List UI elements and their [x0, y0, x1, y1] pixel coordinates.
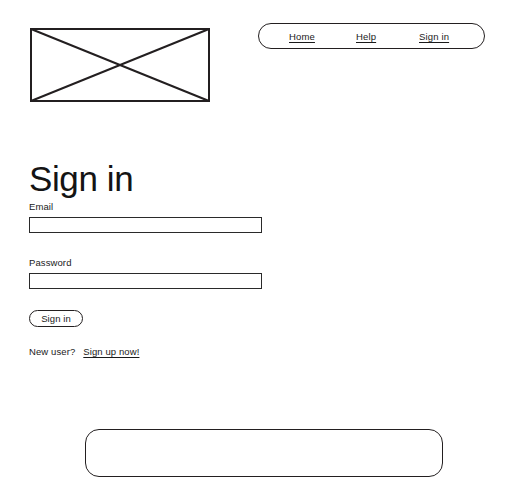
sign-in-submit-button[interactable]: Sign in — [29, 310, 83, 327]
footer-panel — [85, 429, 443, 477]
logo-image-placeholder — [30, 28, 210, 102]
email-input[interactable] — [29, 217, 262, 233]
password-field-label: Password — [29, 257, 72, 268]
nav-link-help[interactable]: Help — [356, 31, 376, 42]
nav-link-sign-in[interactable]: Sign in — [419, 31, 449, 42]
password-input[interactable] — [29, 273, 262, 289]
new-user-row: New user? Sign up now! — [29, 346, 139, 358]
image-placeholder-icon — [30, 28, 210, 102]
email-field-label: Email — [29, 201, 53, 212]
nav-link-home[interactable]: Home — [289, 31, 315, 42]
top-navigation-bar: Home Help Sign in — [258, 23, 485, 49]
new-user-text: New user? — [29, 346, 75, 358]
sign-up-link[interactable]: Sign up now! — [83, 346, 139, 358]
page-title: Sign in — [29, 159, 133, 199]
